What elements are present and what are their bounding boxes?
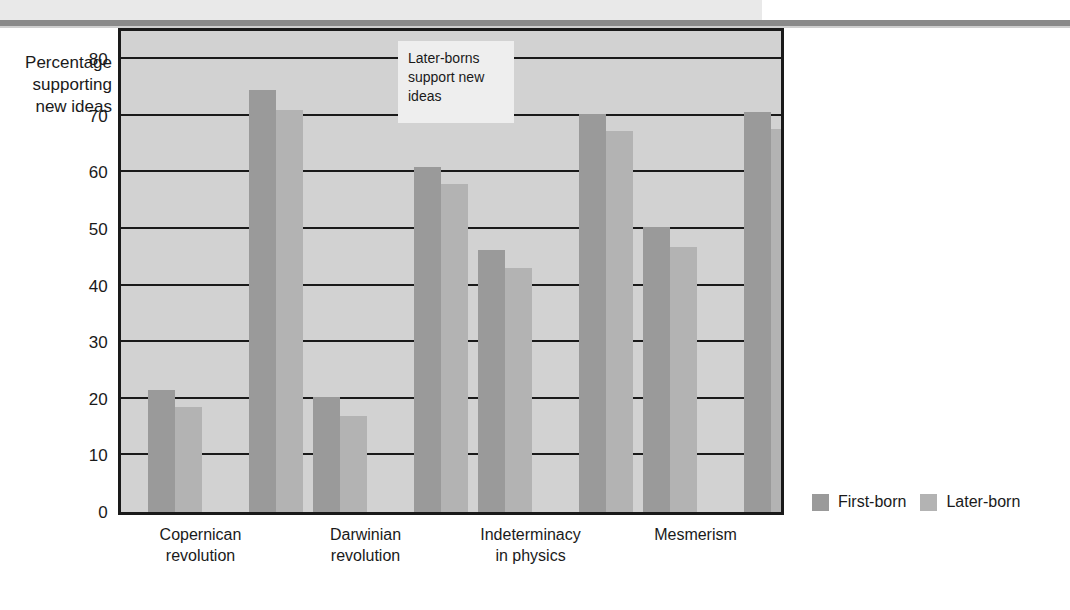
y-axis: 80706050403020100 <box>60 28 116 515</box>
legend-label-0: First-born <box>838 493 906 511</box>
annotation-callout: Later-borns support new ideas <box>398 41 514 123</box>
legend-label-1: Later-born <box>946 493 1020 511</box>
bar-later-born-high-0[interactable] <box>276 110 303 512</box>
bar-later-born-high-2[interactable] <box>606 131 633 512</box>
y-tick-label-30: 30 <box>89 334 108 351</box>
y-tick-label-0: 0 <box>98 504 108 521</box>
y-tick-label-10: 10 <box>89 447 108 464</box>
bar-first-born-high-3[interactable] <box>744 112 771 512</box>
legend-item-1[interactable]: Later-born <box>920 493 1020 511</box>
x-axis-label-3: Mesmerism <box>621 524 770 545</box>
chart-legend: First-bornLater-born <box>812 493 1020 511</box>
bar-first-born-low-2[interactable] <box>478 250 505 512</box>
legend-swatch-icon-0 <box>812 494 829 511</box>
x-axis-label-0: Copernican revolution <box>126 524 275 566</box>
y-tick-label-40: 40 <box>89 277 108 294</box>
legend-item-0[interactable]: First-born <box>812 493 906 511</box>
y-tick-label-20: 20 <box>89 390 108 407</box>
bar-first-born-high-2[interactable] <box>579 114 606 512</box>
bar-first-born-low-0[interactable] <box>148 390 175 512</box>
bar-later-born-low-2[interactable] <box>505 268 532 512</box>
bar-first-born-low-3[interactable] <box>643 227 670 512</box>
y-tick-label-50: 50 <box>89 221 108 238</box>
x-axis-label-1: Darwinian revolution <box>291 524 440 566</box>
bar-later-born-high-1[interactable] <box>441 184 468 512</box>
bar-later-born-high-3[interactable] <box>771 129 781 512</box>
y-tick-label-80: 80 <box>89 51 108 68</box>
bar-first-born-low-1[interactable] <box>313 397 340 512</box>
bar-later-born-low-3[interactable] <box>670 247 697 512</box>
header-band <box>0 0 762 20</box>
bar-first-born-high-0[interactable] <box>249 90 276 512</box>
y-tick-label-60: 60 <box>89 164 108 181</box>
y-tick-label-70: 70 <box>89 107 108 124</box>
bar-later-born-low-0[interactable] <box>175 407 202 512</box>
x-axis-label-2: Indeterminacy in physics <box>456 524 605 566</box>
bar-first-born-high-1[interactable] <box>414 167 441 512</box>
gridline-60 <box>121 170 781 172</box>
bar-later-born-low-1[interactable] <box>340 416 367 512</box>
legend-swatch-icon-1 <box>920 494 937 511</box>
x-axis-labels: Copernican revolutionDarwinian revolutio… <box>118 524 784 584</box>
